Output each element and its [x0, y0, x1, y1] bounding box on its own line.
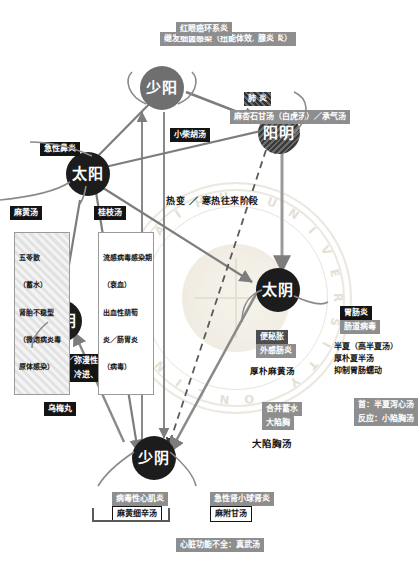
taiyang-stub-layer: [0, 0, 392, 586]
diagram-canvas: TAIHU UNIVERSITY ONLINE Shaoyin (dashed)…: [0, 0, 392, 586]
